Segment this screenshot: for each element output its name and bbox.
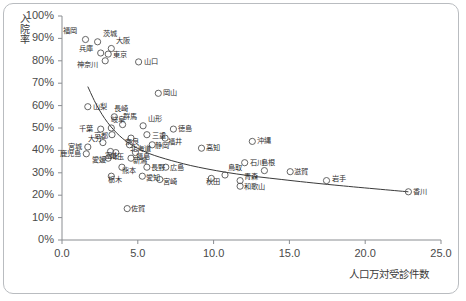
- data-point-label: 宮崎: [163, 178, 177, 186]
- data-point-marker: [139, 173, 145, 179]
- data-point-label: 熊本: [122, 167, 136, 175]
- data-point-marker: [109, 132, 115, 138]
- data-point-label: 栃木: [108, 176, 122, 184]
- data-point-label: 埼玉: [110, 153, 124, 161]
- data-point-label: 徳島: [178, 125, 192, 133]
- data-point-marker: [249, 138, 255, 144]
- y-tick-label: 70%: [14, 76, 54, 88]
- y-tick-label: 40%: [14, 143, 54, 155]
- y-tick-label: 60%: [14, 99, 54, 111]
- data-point-label: 香川: [413, 188, 427, 196]
- data-point-label: 兵庫: [79, 45, 93, 53]
- data-point-label: 茨城: [103, 30, 117, 38]
- data-point-label: 山梨: [93, 103, 107, 111]
- data-point-marker: [242, 160, 248, 166]
- data-point-label: 長野: [151, 164, 165, 172]
- data-point-marker: [140, 123, 146, 129]
- y-tick-label: 90%: [14, 31, 54, 43]
- data-point-label: 大阪: [116, 37, 130, 45]
- data-point-marker: [85, 104, 91, 110]
- data-point-marker: [105, 51, 111, 57]
- data-point-marker: [95, 39, 101, 45]
- data-point-marker: [85, 144, 91, 150]
- data-point-label: 岡山: [163, 89, 177, 97]
- y-tick-label: 20%: [14, 188, 54, 200]
- data-point-label: 青森: [244, 173, 258, 181]
- data-point-label: 岩手: [332, 175, 346, 183]
- y-tick-label: 80%: [14, 54, 54, 66]
- data-point-label: 東京: [113, 51, 127, 59]
- data-point-label: 秋田: [206, 178, 220, 186]
- data-point-label: 福井: [168, 138, 182, 146]
- data-point-marker: [136, 59, 142, 65]
- data-point-label: 鳥取: [228, 164, 242, 172]
- data-point-label: 和歌山: [244, 183, 265, 191]
- data-point-marker: [102, 58, 108, 64]
- data-point-label: 愛媛: [92, 156, 106, 164]
- data-point-label: 新潟: [133, 157, 147, 165]
- data-point-label: 佐賀: [131, 205, 145, 213]
- data-point-label: 大分: [88, 135, 102, 143]
- x-tick-label: 15.0: [269, 247, 309, 259]
- data-point-label: 神奈川: [77, 61, 98, 69]
- y-tick-label: 50%: [14, 121, 54, 133]
- x-axis-title: 人口万対受診件数: [349, 266, 429, 281]
- data-point-marker: [124, 206, 130, 212]
- x-tick-label: 25.0: [421, 247, 461, 259]
- y-tick-label: 10%: [14, 211, 54, 223]
- data-point-marker: [198, 145, 204, 151]
- data-point-label: 沖縄: [257, 137, 271, 145]
- data-point-label: 滋賀: [294, 168, 308, 176]
- data-point-label: 愛知: [146, 174, 160, 182]
- data-point-label: 静岡: [155, 142, 169, 150]
- x-tick-label: 0.0: [42, 247, 82, 259]
- data-point-marker: [222, 172, 228, 178]
- data-point-marker: [170, 126, 176, 132]
- data-point-label: 千葉: [79, 125, 93, 133]
- data-point-label: 広島: [170, 164, 184, 172]
- data-point-label: 三重: [152, 132, 166, 140]
- data-point-label: 島根: [261, 159, 275, 167]
- data-point-marker: [155, 90, 161, 96]
- data-point-marker: [144, 132, 150, 138]
- y-tick-label: 0%: [14, 233, 54, 245]
- data-point-marker: [261, 168, 267, 174]
- data-point-label: 高知: [206, 144, 220, 152]
- data-point-marker: [83, 151, 89, 157]
- data-point-label: 山形: [148, 115, 162, 123]
- data-point-label: 山口: [144, 58, 158, 66]
- data-point-marker: [287, 169, 293, 175]
- x-tick-label: 10.0: [194, 247, 234, 259]
- y-tick-label: 100%: [14, 9, 54, 21]
- y-tick-label: 30%: [14, 166, 54, 178]
- data-point-marker: [108, 125, 114, 131]
- data-point-marker: [323, 178, 329, 184]
- data-point-marker: [98, 50, 104, 56]
- data-point-marker: [82, 36, 88, 42]
- data-point-label: 岐阜: [111, 116, 125, 124]
- x-tick-label: 5.0: [118, 247, 158, 259]
- x-tick-label: 20.0: [345, 247, 385, 259]
- data-point-label: 鹿児島: [60, 150, 81, 158]
- data-point-label: 福岡: [63, 27, 77, 35]
